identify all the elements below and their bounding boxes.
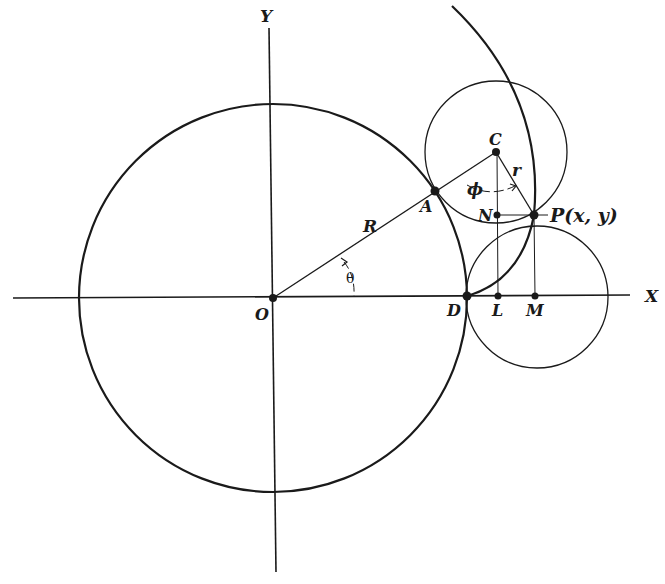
point-M: [532, 293, 539, 300]
label-phi: ϕ: [467, 179, 483, 199]
label-A: A: [418, 197, 432, 216]
point-N: [494, 212, 501, 219]
x-axis-label: X: [644, 286, 659, 306]
point-A: [431, 187, 440, 196]
point-O: [269, 294, 277, 302]
label-O: O: [255, 305, 269, 324]
label-L: L: [491, 301, 503, 320]
label-R: R: [362, 216, 377, 236]
line-C-L: [497, 152, 498, 296]
label-C: C: [489, 130, 502, 149]
label-D: D: [446, 301, 461, 320]
line-P-M: [534, 215, 535, 296]
point-C: [492, 148, 500, 156]
y-axis-label: Y: [260, 6, 274, 26]
label-N: N: [477, 206, 494, 225]
point-L: [495, 293, 502, 300]
epicycloid-diagram: Y X O A C N P(x, y) D L M R r θ ϕ: [0, 0, 665, 584]
radius-R-line: [273, 152, 496, 298]
label-M: M: [525, 301, 545, 320]
point-P: [530, 211, 539, 220]
label-theta: θ: [346, 270, 354, 286]
label-P: P(x, y): [549, 204, 618, 226]
point-D: [463, 292, 472, 301]
label-r: r: [512, 160, 522, 180]
